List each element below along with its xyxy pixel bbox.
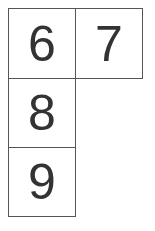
cell-number: 9 bbox=[28, 157, 56, 207]
cell-number: 8 bbox=[28, 88, 56, 138]
grid-cell-9: 9 bbox=[8, 147, 76, 217]
cell-number: 6 bbox=[28, 19, 56, 69]
grid-cell-6: 6 bbox=[8, 8, 76, 79]
grid-cell-8: 8 bbox=[8, 78, 76, 148]
cell-number: 7 bbox=[95, 19, 123, 69]
grid-cell-7: 7 bbox=[75, 8, 143, 79]
